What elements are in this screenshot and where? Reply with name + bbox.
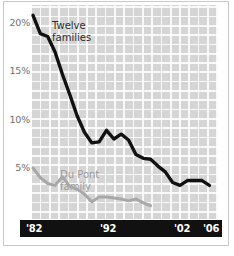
du-pont-family-line (33, 168, 151, 206)
x-tick-06: '06 (203, 223, 219, 234)
twelve-families-line (33, 15, 209, 185)
x-axis-band: '82 '92 '02 '06 (20, 220, 222, 237)
chart-figure: 20% 15% 10% 5% Twelve families Du Pont f… (0, 0, 234, 256)
series-lines (0, 0, 234, 256)
x-tick-82: '82 (26, 223, 42, 234)
x-tick-92: '92 (100, 223, 116, 234)
x-tick-02: '02 (174, 223, 190, 234)
